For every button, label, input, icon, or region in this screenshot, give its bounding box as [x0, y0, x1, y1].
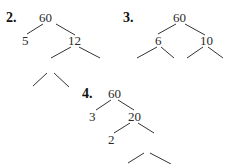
tree-edge [51, 47, 71, 58]
tree-edge [33, 73, 47, 86]
tree-label: 4. [82, 86, 93, 101]
tree-node-root: 60 [108, 86, 121, 101]
tree-edge [56, 24, 75, 35]
tree-edge [161, 47, 174, 58]
tree-node-left: 6 [155, 33, 162, 48]
tree-edge [187, 47, 203, 58]
factor-tree-2: 2. 60 5 12 [6, 10, 100, 87]
tree-edge [185, 24, 205, 35]
tree-node-right-left: 2 [108, 132, 115, 147]
tree-node-root: 60 [173, 10, 186, 25]
tree-edge [128, 153, 144, 163]
factor-tree-3: 3. 60 6 10 [123, 10, 223, 58]
factor-trees-diagram: 2. 60 5 12 3. 60 6 10 4. 60 3 20 2 [0, 0, 234, 164]
tree-node-right: 10 [200, 33, 213, 48]
tree-edge [96, 100, 111, 110]
tree-edge [150, 153, 171, 164]
tree-label: 3. [123, 10, 134, 25]
tree-edge [79, 47, 100, 58]
tree-node-left: 3 [89, 109, 96, 124]
tree-edge [138, 123, 154, 133]
tree-node-right: 20 [128, 109, 141, 124]
tree-edge [208, 47, 223, 58]
tree-edge [54, 73, 69, 87]
tree-node-left: 5 [22, 33, 29, 48]
tree-edge [118, 100, 134, 110]
tree-edge [27, 24, 43, 34]
tree-node-root: 60 [39, 10, 52, 25]
tree-edge [137, 47, 157, 58]
tree-edge [158, 24, 176, 34]
tree-edge [114, 123, 130, 133]
tree-label: 2. [6, 10, 17, 25]
factor-tree-4: 4. 60 3 20 2 [82, 86, 171, 164]
